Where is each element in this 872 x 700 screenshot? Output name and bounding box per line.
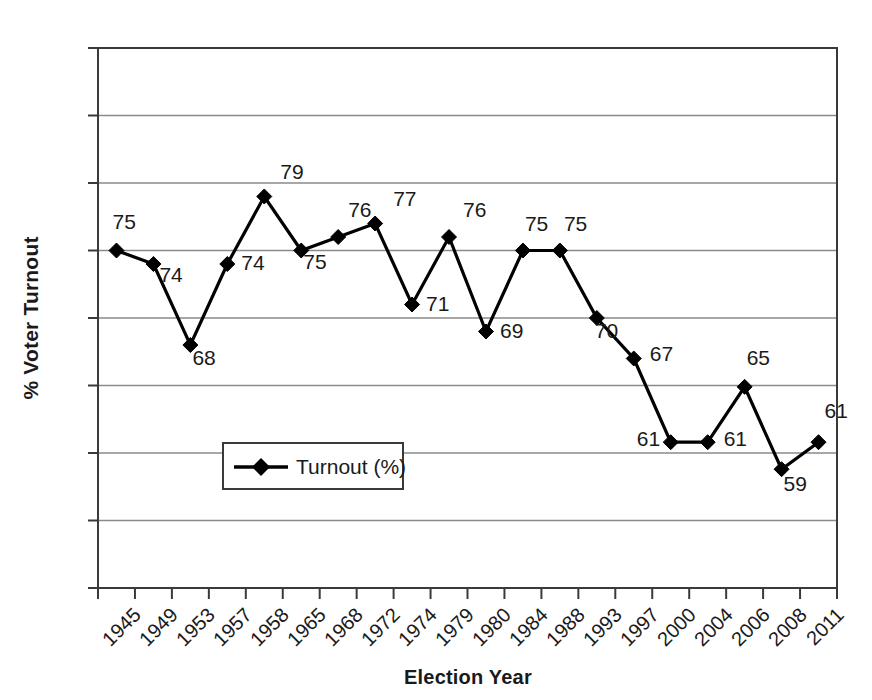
- data-point-label: 68: [192, 347, 215, 368]
- data-point-label: 61: [637, 428, 660, 449]
- legend: Turnout (%): [222, 442, 404, 490]
- y-tick-label-group: 908580757065605550: [0, 0, 92, 700]
- data-point-label: 76: [463, 199, 486, 220]
- legend-sample-icon: [232, 445, 292, 489]
- data-point-label: 67: [650, 343, 673, 364]
- legend-entry-label: Turnout (%): [296, 455, 406, 479]
- data-point-label: 75: [525, 213, 548, 234]
- data-point-label: 74: [241, 252, 264, 273]
- x-axis-title: Election Year: [98, 666, 838, 689]
- data-point-label: 61: [825, 400, 848, 421]
- x-axis-ticks: [98, 588, 837, 599]
- data-point-label: 70: [595, 320, 618, 341]
- data-point-label: 74: [159, 264, 182, 285]
- data-point-label: 75: [303, 251, 326, 272]
- data-point-label: 77: [393, 188, 416, 209]
- series-line-turnout: [116, 197, 818, 470]
- data-point-label: 75: [112, 211, 135, 232]
- data-point-label: 59: [784, 473, 807, 494]
- chart-figure: % Voter Turnout 908580757065605550 19451…: [0, 0, 872, 700]
- data-point-label: 76: [348, 199, 371, 220]
- data-point-label: 65: [747, 347, 770, 368]
- data-point-label: 61: [724, 428, 747, 449]
- data-point-label: 79: [280, 161, 303, 182]
- data-point-label: 71: [426, 293, 449, 314]
- series-markers-turnout: [109, 189, 826, 477]
- data-point-label: 75: [564, 213, 587, 234]
- plot-area: [0, 0, 872, 700]
- data-point-label: 69: [500, 320, 523, 341]
